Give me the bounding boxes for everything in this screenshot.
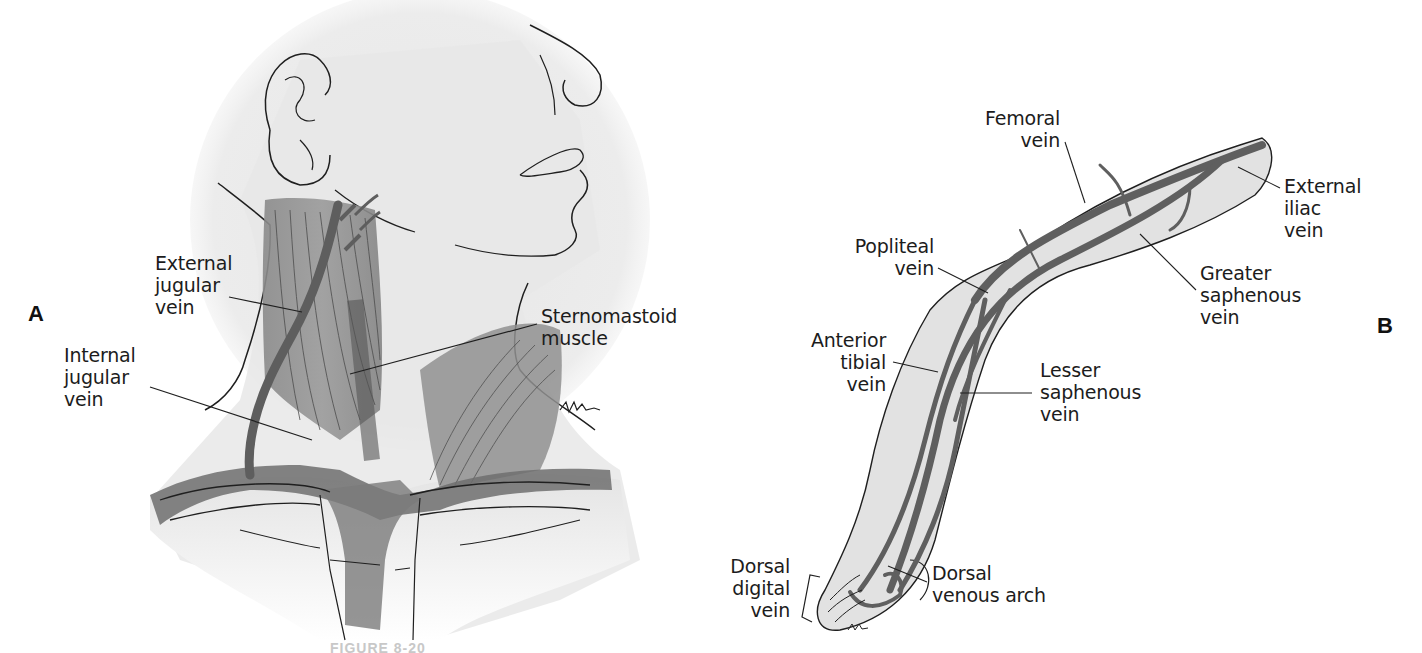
panel-letter-a: A (28, 301, 44, 327)
panel-letter-b: B (1377, 313, 1393, 339)
figure-caption: FIGURE 8-20 (330, 640, 426, 653)
label-femoral-vein: Femoral vein (985, 107, 1060, 151)
leader-femoral (1065, 142, 1085, 203)
label-external-jugular-vein: External jugular vein (155, 252, 232, 318)
label-lesser-saphenous-vein: Lesser saphenous vein (1040, 359, 1141, 425)
label-dorsal-digital-vein: Dorsal digital vein (720, 555, 790, 621)
label-greater-saphenous-vein: Greater saphenous vein (1200, 262, 1301, 328)
artist-signature (560, 402, 600, 412)
label-internal-jugular-vein: Internal jugular vein (64, 344, 136, 410)
label-dorsal-venous-arch: Dorsal venous arch (932, 562, 1046, 606)
label-external-iliac-vein: External iliac vein (1284, 175, 1361, 241)
leader-greater-saphenous (1140, 234, 1196, 290)
anatomy-figure: A B External jugular vein Internal jugul… (0, 0, 1422, 653)
label-popliteal-vein: Popliteal vein (848, 235, 934, 279)
label-sternomastoid-muscle: Sternomastoid muscle (541, 305, 677, 349)
label-anterior-tibial-vein: Anterior tibial vein (800, 329, 886, 395)
